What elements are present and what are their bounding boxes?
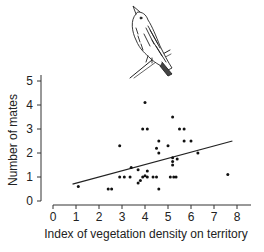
y-axis bbox=[37, 75, 41, 201]
data-point bbox=[175, 176, 178, 179]
data-point bbox=[144, 101, 147, 104]
y-tick-labels: 0 1 2 3 4 5 bbox=[26, 74, 33, 208]
data-point bbox=[77, 185, 80, 188]
y-tick-5: 5 bbox=[26, 74, 33, 88]
data-point bbox=[146, 170, 149, 173]
y-tick-0: 0 bbox=[26, 194, 33, 208]
data-point bbox=[137, 168, 140, 171]
data-point bbox=[171, 156, 174, 159]
x-tick-1: 1 bbox=[73, 210, 80, 224]
x-tick-4: 4 bbox=[142, 210, 149, 224]
data-point bbox=[123, 176, 126, 179]
scatter-chart: 0 1 2 3 4 5 Number of mates 0 1 2 3 4 5 … bbox=[0, 0, 264, 252]
data-point bbox=[146, 176, 149, 179]
data-point bbox=[141, 128, 144, 131]
data-point bbox=[129, 176, 132, 179]
data-point bbox=[155, 176, 158, 179]
data-point bbox=[155, 147, 158, 150]
y-tick-3: 3 bbox=[26, 122, 33, 136]
data-point bbox=[167, 144, 170, 147]
data-point bbox=[176, 158, 179, 161]
x-tick-7: 7 bbox=[211, 210, 218, 224]
x-tick-3: 3 bbox=[119, 210, 126, 224]
data-point bbox=[171, 160, 174, 163]
data-point bbox=[190, 140, 193, 143]
data-point bbox=[118, 144, 121, 147]
x-tick-labels: 0 1 2 3 4 5 6 7 8 bbox=[50, 210, 241, 224]
y-axis-title: Number of mates bbox=[6, 94, 20, 186]
data-point bbox=[178, 128, 181, 131]
x-tick-0: 0 bbox=[50, 210, 57, 224]
y-tick-4: 4 bbox=[26, 98, 33, 112]
data-point bbox=[157, 152, 160, 155]
data-point bbox=[183, 128, 186, 131]
data-point bbox=[118, 176, 121, 179]
data-point bbox=[137, 182, 140, 185]
data-point bbox=[196, 152, 199, 155]
data-point bbox=[110, 188, 113, 191]
bird-illustration-icon bbox=[130, 6, 172, 78]
x-tick-5: 5 bbox=[165, 210, 172, 224]
x-axis bbox=[53, 205, 251, 209]
data-point bbox=[171, 164, 174, 167]
y-tick-1: 1 bbox=[26, 170, 33, 184]
x-tick-8: 8 bbox=[234, 210, 241, 224]
data-point bbox=[157, 140, 160, 143]
data-point bbox=[107, 188, 110, 191]
data-point bbox=[152, 176, 155, 179]
y-tick-2: 2 bbox=[26, 146, 33, 160]
x-tick-2: 2 bbox=[96, 210, 103, 224]
data-point bbox=[169, 176, 172, 179]
data-point bbox=[183, 140, 186, 143]
data-point bbox=[146, 128, 149, 131]
x-axis-title: Index of vegetation density on territory bbox=[44, 227, 247, 241]
x-tick-6: 6 bbox=[188, 210, 195, 224]
data-point bbox=[157, 188, 160, 191]
data-point bbox=[130, 166, 133, 169]
data-point bbox=[139, 179, 142, 182]
data-point bbox=[226, 173, 229, 176]
data-point bbox=[171, 116, 174, 119]
